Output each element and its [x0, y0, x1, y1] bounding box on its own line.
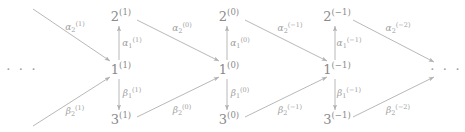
node-superscript: (1)	[119, 60, 131, 70]
edge-label-beta2-m1: β2(−1)	[278, 106, 302, 115]
edge-label-alpha1-0: α1(0)	[230, 39, 249, 48]
edge-label-beta1-0: β1(0)	[231, 89, 250, 98]
node-n1-1: 1(1)	[111, 63, 131, 76]
edge-label-superscript: (−2)	[395, 103, 410, 111]
node-n3-1: 3(1)	[111, 113, 131, 126]
edge-label-superscript: (−1)	[346, 86, 361, 94]
node-n3-m1: 3(−1)	[323, 113, 350, 126]
node-n2-m1: 2(−1)	[323, 10, 350, 23]
left-ellipsis: · · ·	[6, 62, 38, 77]
edge-label-superscript: (1)	[133, 36, 142, 44]
edge-label-superscript: (1)	[75, 104, 84, 112]
edge-label-alpha2-0: α2(0)	[172, 24, 191, 33]
node-n1-0: 1(0)	[219, 63, 239, 76]
edge-arrow-beta2-1	[33, 77, 110, 126]
edge-label-superscript: (−1)	[288, 21, 303, 29]
node-superscript: (−1)	[332, 60, 351, 70]
edge-label-beta2-m2: β2(−2)	[386, 106, 410, 115]
node-n2-1: 2(1)	[111, 10, 131, 23]
edge-label-superscript: (0)	[182, 103, 191, 111]
node-superscript: (1)	[119, 7, 131, 17]
node-superscript: (−1)	[332, 110, 351, 120]
edge-label-alpha2-m2: α2(−2)	[386, 24, 411, 33]
edge-label-alpha2-1: α2(1)	[65, 23, 84, 32]
edge-arrow-alpha2-1	[33, 9, 110, 61]
edge-label-superscript: (0)	[241, 36, 250, 44]
node-n2-0: 2(0)	[219, 10, 239, 23]
node-n1-m1: 1(−1)	[323, 63, 350, 76]
edge-label-alpha1-1: α1(1)	[122, 39, 141, 48]
edge-label-superscript: (1)	[132, 86, 141, 94]
node-superscript: (0)	[227, 7, 239, 17]
edge-label-alpha2-m1: α2(−1)	[278, 24, 303, 33]
right-ellipsis: · · ·	[430, 62, 462, 77]
edge-label-superscript: (−1)	[347, 36, 362, 44]
node-superscript: (−1)	[332, 7, 351, 17]
node-superscript: (0)	[227, 60, 239, 70]
edge-label-superscript: (−1)	[287, 103, 302, 111]
edge-label-superscript: (1)	[76, 20, 85, 28]
edge-label-beta2-0: β2(0)	[173, 106, 192, 115]
edge-label-superscript: (0)	[183, 21, 192, 29]
edge-label-beta1-1: β1(1)	[123, 89, 142, 98]
edge-label-superscript: (−2)	[396, 21, 411, 29]
node-superscript: (1)	[119, 110, 131, 120]
node-superscript: (0)	[227, 110, 239, 120]
edge-label-alpha1-m1: α1(−1)	[337, 39, 362, 48]
node-n3-0: 3(0)	[219, 113, 239, 126]
edge-label-beta1-m1: β1(−1)	[337, 89, 361, 98]
edge-label-superscript: (0)	[240, 86, 249, 94]
quiver-diagram: 2(1)1(1)3(1)2(0)1(0)3(0)2(−1)1(−1)3(−1) …	[0, 0, 465, 132]
edge-label-beta2-1: β2(1)	[66, 107, 85, 116]
